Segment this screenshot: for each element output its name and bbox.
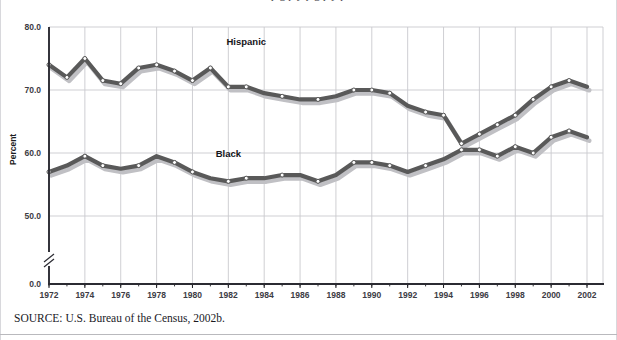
data-point-marker — [513, 145, 517, 149]
y-tick-label: 50.0 — [24, 211, 41, 221]
y-zero-label: 0.0 — [29, 279, 41, 289]
y-tick-label: 70.0 — [24, 85, 41, 95]
plot-area: 80.070.060.050.00.0Percent 1972197419761… — [0, 8, 617, 305]
data-point-marker — [83, 154, 87, 158]
data-point-marker — [459, 142, 463, 146]
data-point-marker — [280, 94, 284, 98]
x-tick-label: 1972 — [40, 290, 59, 300]
axis-lines — [44, 27, 604, 284]
data-point-marker — [83, 57, 87, 61]
data-point-marker — [316, 179, 320, 183]
y-tick-label: 80.0 — [24, 22, 41, 32]
data-point-marker — [477, 148, 481, 152]
data-point-marker — [226, 85, 230, 89]
y-tick-labels: 80.070.060.050.00.0Percent — [8, 22, 41, 289]
y-axis-title: Percent — [8, 134, 18, 165]
data-point-marker — [549, 85, 553, 89]
series-shadow-black — [51, 134, 589, 184]
data-point-marker — [316, 97, 320, 101]
data-point-marker — [370, 160, 374, 164]
x-tick-label: 1978 — [147, 290, 166, 300]
series-markers — [47, 57, 571, 184]
x-tick-label: 1974 — [75, 290, 94, 300]
x-tick-label: 1976 — [111, 290, 130, 300]
figure-bottom-border — [0, 334, 617, 335]
x-tick-label: 2002 — [578, 290, 597, 300]
data-point-marker — [442, 113, 446, 117]
data-point-marker — [101, 79, 105, 83]
data-point-marker — [101, 164, 105, 168]
data-point-marker — [424, 164, 428, 168]
data-point-marker — [173, 69, 177, 73]
data-point-marker — [155, 63, 159, 67]
data-point-marker — [137, 164, 141, 168]
figure-caption-cutoff: p g p y p g p y p — [0, 0, 617, 3]
x-tick-labels: 1972197419761978198019821984198619881990… — [40, 290, 597, 300]
data-point-marker — [352, 160, 356, 164]
data-point-marker — [388, 164, 392, 168]
data-point-marker — [531, 97, 535, 101]
data-point-marker — [388, 91, 392, 95]
data-point-marker — [549, 135, 553, 139]
data-point-marker — [190, 170, 194, 174]
series-label-black: Black — [216, 148, 242, 159]
data-point-marker — [244, 85, 248, 89]
data-point-marker — [477, 132, 481, 136]
x-tick-label: 1992 — [398, 290, 417, 300]
data-point-marker — [226, 179, 230, 183]
x-tick-label: 1994 — [434, 290, 453, 300]
data-point-marker — [137, 66, 141, 70]
data-point-marker — [531, 151, 535, 155]
source-note: SOURCE: U.S. Bureau of the Census, 2002b… — [14, 312, 225, 324]
y-tick-label: 60.0 — [24, 148, 41, 158]
data-point-marker — [370, 88, 374, 92]
data-point-marker — [424, 110, 428, 114]
x-tick-label: 2000 — [542, 290, 561, 300]
data-point-marker — [208, 66, 212, 70]
x-tick-label: 1996 — [470, 290, 489, 300]
x-tick-label: 1998 — [506, 290, 525, 300]
line-chart: 80.070.060.050.00.0Percent 1972197419761… — [0, 8, 617, 305]
data-point-marker — [190, 79, 194, 83]
data-point-marker — [280, 173, 284, 177]
series-label-hispanic: Hispanic — [226, 36, 266, 47]
series-labels: HispanicBlack — [216, 36, 266, 160]
x-tick-label: 1988 — [326, 290, 345, 300]
data-point-marker — [244, 176, 248, 180]
figure-container: p g p y p g p y p 80.070.060.050.00.0Per… — [0, 0, 617, 340]
gridlines — [49, 27, 603, 216]
data-point-marker — [495, 154, 499, 158]
data-point-marker — [65, 75, 69, 79]
x-tick-label: 1986 — [291, 290, 310, 300]
x-tick-label: 1984 — [255, 290, 274, 300]
x-tick-label: 1982 — [219, 290, 238, 300]
data-point-marker — [567, 79, 571, 83]
data-point-marker — [119, 82, 123, 86]
x-tick-label: 1990 — [362, 290, 381, 300]
series-lines — [49, 59, 587, 182]
data-point-marker — [459, 148, 463, 152]
data-point-marker — [495, 123, 499, 127]
data-point-marker — [513, 113, 517, 117]
data-point-marker — [567, 129, 571, 133]
data-point-marker — [173, 160, 177, 164]
data-point-marker — [352, 88, 356, 92]
x-tick-label: 1980 — [183, 290, 202, 300]
